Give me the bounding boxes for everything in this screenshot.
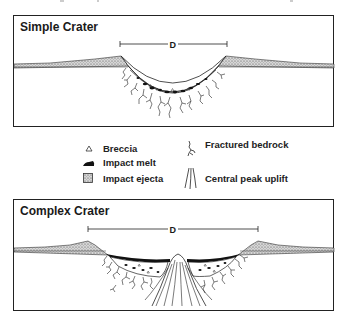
legend-item-fractured-bedrock: Fractured bedrock	[188, 139, 289, 156]
legend-item-impact-ejecta: Impact ejecta	[84, 173, 164, 184]
fracture-icon	[188, 141, 195, 156]
legend-item-impact-melt: Impact melt	[83, 157, 157, 168]
crater-diagram: Simple Crater D	[0, 0, 351, 322]
simple-crater-title: Simple Crater	[20, 20, 98, 34]
legend-item-breccia: Breccia	[86, 143, 138, 154]
uplift-lines-icon	[185, 168, 196, 189]
complex-crater-panel: Complex Crater D	[14, 200, 335, 311]
svg-text:Breccia: Breccia	[103, 143, 138, 154]
triangle-icon	[86, 146, 92, 151]
svg-text:Central peak uplift: Central peak uplift	[205, 173, 289, 184]
legend: Breccia Impact melt Impact ejecta Fractu…	[83, 139, 289, 189]
complex-crater-title: Complex Crater	[20, 204, 110, 218]
stipple-square-icon	[84, 174, 93, 183]
svg-text:Impact ejecta: Impact ejecta	[103, 173, 164, 184]
complex-diameter-label: D	[170, 225, 177, 235]
svg-text:Fractured bedrock: Fractured bedrock	[205, 139, 289, 150]
impact-melt-icon	[83, 161, 94, 166]
simple-diameter-label: D	[170, 40, 177, 50]
simple-crater-panel: Simple Crater D	[14, 16, 335, 127]
legend-item-central-peak-uplift: Central peak uplift	[185, 168, 289, 189]
svg-text:Impact melt: Impact melt	[103, 157, 157, 168]
